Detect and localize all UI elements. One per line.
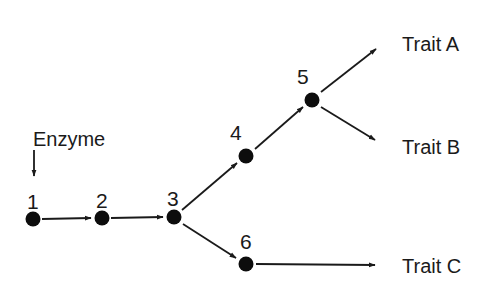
nodes: 1 2 3 4 5 6: [26, 65, 320, 272]
edge-4-5: [255, 107, 303, 149]
trait-a-label: Trait A: [402, 33, 460, 55]
node-3: 3: [167, 187, 182, 225]
node-dot: [95, 211, 110, 226]
trait-c-label: Trait C: [402, 255, 461, 277]
node-label: 3: [167, 187, 179, 210]
node-1: 1: [26, 190, 41, 227]
edge-5-trait-a: [321, 49, 376, 92]
node-6: 6: [239, 230, 254, 272]
edge-3-6: [183, 224, 236, 258]
edge-3-4: [182, 163, 237, 210]
node-dot: [167, 210, 182, 225]
node-dot: [239, 149, 254, 164]
pathway-diagram: Enzyme 1 2 3 4 5: [0, 0, 503, 307]
node-2: 2: [95, 189, 110, 226]
node-5: 5: [297, 65, 320, 108]
node-dot: [305, 93, 320, 108]
enzyme-label: Enzyme: [33, 128, 105, 150]
trait-b-label: Trait B: [402, 136, 460, 158]
edge-5-trait-b: [321, 107, 375, 140]
node-label: 1: [27, 190, 39, 213]
edge-6-trait-c: [256, 264, 375, 265]
node-label: 2: [96, 189, 108, 212]
traits: Trait A Trait B Trait C: [402, 33, 461, 277]
node-label: 6: [240, 230, 252, 253]
edge-2-3: [111, 217, 163, 218]
node-label: 5: [297, 65, 309, 88]
edge-1-2: [42, 218, 91, 219]
node-label: 4: [230, 121, 242, 144]
edges: [42, 49, 376, 265]
node-dot: [239, 257, 254, 272]
node-4: 4: [230, 121, 254, 164]
node-dot: [26, 212, 41, 227]
